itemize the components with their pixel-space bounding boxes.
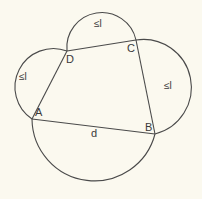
vertex-label-c: C (127, 42, 135, 54)
side-cd (67, 40, 136, 51)
diagram-canvas: ≤l≤l≤lABCDd (0, 0, 202, 199)
arc-label-dc: ≤l (94, 18, 102, 29)
vertex-label-b: B (145, 121, 152, 133)
arc-label-cb: ≤l (164, 80, 172, 91)
vertex-label-a: A (35, 106, 43, 118)
side-label-d: d (91, 127, 97, 139)
quadrilateral-diagram: ≤l≤l≤lABCDd (0, 0, 202, 199)
arc-label-da: ≤l (19, 71, 27, 82)
side-bc (136, 40, 155, 134)
vertex-label-d: D (66, 53, 74, 65)
